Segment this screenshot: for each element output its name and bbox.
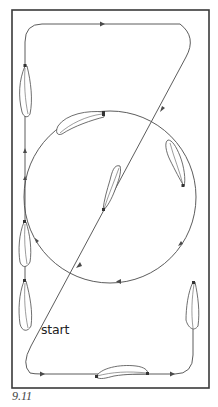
arrow-icon: [100, 22, 105, 27]
feather-icon: [20, 64, 32, 117]
feather-icon: [102, 166, 121, 211]
arrow-icon: [40, 372, 45, 377]
feather-icon: [95, 365, 149, 378]
arrow-icon: [160, 106, 165, 112]
feather-icon: [19, 279, 32, 330]
arrow-icon: [23, 148, 27, 153]
diagram-figure: [0, 0, 218, 407]
feather-icon: [57, 111, 105, 135]
arrow-icon: [170, 372, 175, 377]
arrow-icon: [76, 262, 82, 268]
feather-icon: [186, 281, 199, 329]
arrow-icon: [35, 238, 39, 243]
start-label: start: [41, 322, 69, 337]
arrow-icon: [178, 241, 183, 246]
figure-caption: 9.11: [12, 389, 32, 404]
feather-icon: [166, 140, 185, 187]
arrow-icon: [116, 279, 121, 284]
track-path: [25, 24, 190, 346]
